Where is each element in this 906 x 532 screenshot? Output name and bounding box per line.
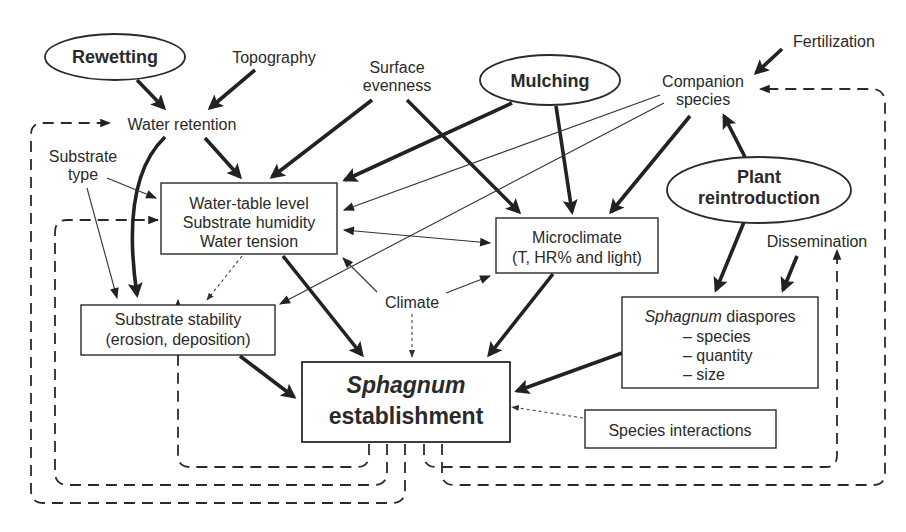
node-plant-reintroduction: Plant reintroduction [667,157,851,223]
arrow-rewetting-water-retention [137,80,164,108]
arrow-climate-water-table [343,258,377,292]
arrow-plant-reintroduction-companion-species [724,116,745,157]
box-water-table: Water-table level Substrate humidity Wat… [161,183,337,254]
arrow-climate-microclimate [446,276,490,293]
arrow-mulching-microclimate [556,106,572,212]
arrow-dissemination-diaspores [783,256,797,290]
box-microclimate: Microclimate (T, HR% and light) [496,218,658,273]
arrow-surface-evenness-microclimate [407,100,519,212]
companion-species-label-2: species [676,91,730,108]
microclimate-detail-label: (T, HR% and light) [512,249,642,266]
sphagnum-establishment-diagram: Rewetting Mulching Plant reintroduction … [0,0,906,532]
companion-species-label-1: Companion [662,73,744,90]
arrow-substrate-stability-establishment [240,356,294,397]
diaspores-title-rest: diaspores [722,308,796,325]
diaspores-title-italic: Sphagnum [644,308,721,325]
species-interactions-label: Species interactions [608,422,751,439]
diaspores-item-species: – species [683,328,751,345]
arrow-diaspores-establishment [517,353,622,391]
arrow-species-interactions-establishment [512,407,583,418]
water-retention-label: Water retention [128,116,237,133]
arrow-water-table-establishment [283,256,362,355]
arrow-microclimate-establishment [489,274,553,355]
rewetting-label: Rewetting [72,47,158,67]
surface-evenness-label-1: Surface [369,59,424,76]
water-table-level-label: Water-table level [189,195,308,212]
arrow-substrate-type-substrate-stability [87,188,117,298]
substrate-type-label-1: Substrate [49,148,118,165]
plant-reintroduction-label-1: Plant [737,167,781,187]
arrow-water-retention-substrate-stability [132,137,165,295]
arrow-water-table-substrate-stability [207,256,242,300]
substrate-humidity-label: Substrate humidity [183,214,316,231]
substrate-stability-label: Substrate stability [115,311,241,328]
arrow-surface-evenness-water-table [272,100,372,177]
arrow-plant-reintroduction-diaspores [716,222,744,290]
water-tension-label: Water tension [200,233,298,250]
diaspores-item-size: – size [683,366,725,383]
mulching-label: Mulching [511,71,590,91]
node-mulching: Mulching [480,55,620,105]
arrow-topography-water-retention [210,70,255,108]
surface-evenness-label-2: evenness [363,77,432,94]
dissemination-label: Dissemination [767,233,867,250]
diaspores-title: Sphagnum diaspores [644,308,795,325]
arrow-substrate-type-water-table [107,178,156,198]
arrow-water-retention-water-table [205,138,240,177]
box-sphagnum-diaspores: Sphagnum diaspores – species – quantity … [622,297,818,388]
box-sphagnum-establishment: Sphagnum establishment [302,362,510,442]
establishment-label-2: establishment [329,403,484,429]
microclimate-label: Microclimate [532,229,622,246]
box-species-interactions: Species interactions [585,410,776,448]
plant-reintroduction-label-2: reintroduction [698,188,820,208]
substrate-stability-detail-label: (erosion, deposition) [106,331,251,348]
arrow-fertilization-companion-species [756,49,782,73]
substrate-type-label-2: type [68,166,98,183]
climate-label: Climate [385,294,439,311]
arrow-mulching-water-table [345,103,512,180]
fertilization-label: Fertilization [793,33,875,50]
topography-label: Topography [232,49,316,66]
diaspores-item-quantity: – quantity [683,347,752,364]
box-substrate-stability: Substrate stability (erosion, deposition… [81,305,275,355]
establishment-label-1: Sphagnum [347,372,466,398]
node-rewetting: Rewetting [45,34,185,80]
